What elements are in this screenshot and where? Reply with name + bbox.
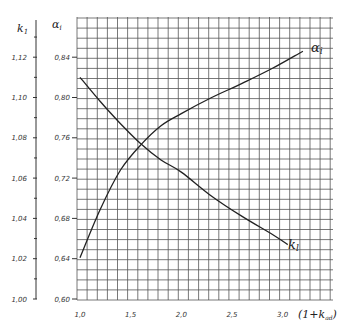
chart: 1,001,021,041,061,081,101,120,600,640,68… <box>0 0 353 335</box>
alpha-axis-title: αi <box>52 18 62 32</box>
k1-tick-label: 1,00 <box>11 296 27 304</box>
alpha-tick-label: 0,64 <box>54 255 70 263</box>
alpha-tick-label: 0,80 <box>54 94 70 102</box>
x-tick-label: 1,0 <box>74 311 86 319</box>
x-axis-title: (1+kad) <box>298 308 337 321</box>
alpha-tick-label: 0,84 <box>54 54 70 62</box>
x-tick-label: 1,5 <box>125 311 137 319</box>
k1-tick-label: 1,10 <box>11 94 27 102</box>
k1-tick-label: 1,12 <box>11 54 27 62</box>
alpha-curve-label: αi <box>311 40 323 56</box>
alpha-tick-label: 0,60 <box>54 296 70 304</box>
alpha-tick-label: 0,76 <box>54 134 70 142</box>
grid <box>77 17 333 300</box>
x-tick-label: 2,5 <box>226 311 238 319</box>
alpha-tick-label: 0,72 <box>54 175 70 183</box>
k1-tick-label: 1,06 <box>11 175 27 183</box>
k1-tick-label: 1,08 <box>11 134 27 142</box>
x-tick-label: 2,0 <box>176 311 188 319</box>
k1-tick-label: 1,02 <box>11 255 27 263</box>
x-tick-label: 3,0 <box>277 311 289 319</box>
alpha-tick-label: 0,68 <box>54 215 70 223</box>
k1-axis-title: k1 <box>17 22 28 36</box>
k1-tick-label: 1,04 <box>11 215 27 223</box>
